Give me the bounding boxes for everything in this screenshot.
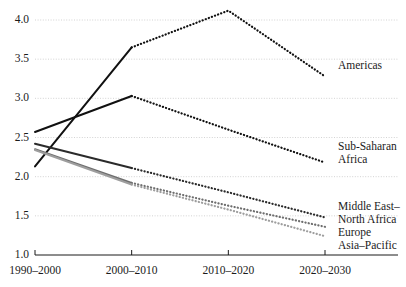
series-label-line: Africa	[338, 153, 397, 166]
series-label: Middle East–North Africa	[338, 200, 400, 225]
series-label-line: North Africa	[338, 213, 400, 226]
series-label-line: Middle East–	[338, 200, 400, 213]
x-axis-tick-label: 1990–2000	[0, 265, 80, 277]
series-label-line: Sub-Saharan	[338, 140, 397, 153]
x-axis-tick-label: 2020–2030	[280, 265, 370, 277]
chart-container: 1.01.52.02.53.03.54.0 1990–20002000–2010…	[0, 0, 406, 287]
series-label: Sub-SaharanAfrica	[338, 140, 397, 165]
x-axis-tick-label: 2000–2010	[87, 265, 177, 277]
series-label: Americas	[338, 59, 382, 72]
x-axis-tick-label: 2010–2020	[183, 265, 273, 277]
series-label: Asia–Pacific	[338, 239, 397, 252]
series-label: Europe	[338, 226, 371, 239]
